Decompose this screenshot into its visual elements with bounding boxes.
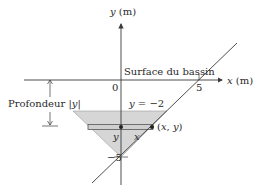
point-xy [150,125,154,129]
depth-label: Profondeur |y| [8,98,81,110]
pool-diagram: y (m) x (m) 0 5 −5 Surface du bassin Pro… [0,0,258,192]
y-tick-label: −5 [107,152,122,163]
level-label: y = −2 [128,98,164,109]
axis-point [119,125,123,129]
point-label: (x, y) [157,121,183,132]
shaded-region [73,111,167,157]
strip-x-label: x [134,131,140,142]
x-axis-label: x (m) [227,75,253,86]
origin-label: 0 [112,82,118,93]
surface-label: Surface du bassin [124,66,215,77]
strip-y-label: y [112,131,119,142]
y-axis-label: y (m) [109,6,136,17]
x-tick-label: 5 [196,82,202,93]
